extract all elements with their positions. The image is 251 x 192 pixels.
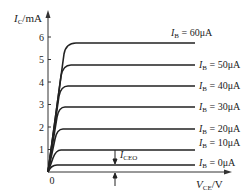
y-tick-4: 4 <box>39 77 44 88</box>
label-ib-30: IB = 30μA <box>198 101 241 114</box>
chart-svg: 1 2 3 4 5 6 0 IC/mA VCE/V IB = 60μA IB =… <box>0 0 251 192</box>
curve-ib-30 <box>48 107 195 172</box>
y-axis-arrow-icon <box>46 10 51 18</box>
x-axis-arrow-icon <box>224 170 232 175</box>
series-labels: IB = 60μA IB = 50μA IB = 40μA IB = 30μA … <box>170 27 241 170</box>
label-ib-60: IB = 60μA <box>170 27 213 40</box>
curve-ib-0 <box>48 165 195 172</box>
label-ib-40: IB = 40μA <box>198 80 241 93</box>
x-axis-label: VCE/V <box>196 178 223 192</box>
transistor-output-characteristics-chart: 1 2 3 4 5 6 0 IC/mA VCE/V IB = 60μA IB =… <box>0 0 251 192</box>
axes <box>48 16 226 172</box>
iceo-annotation <box>113 150 117 186</box>
y-tick-3: 3 <box>39 99 44 110</box>
label-ib-10: IB = 10μA <box>198 137 241 150</box>
label-ib-20: IB = 20μA <box>198 123 241 136</box>
label-ib-50: IB = 50μA <box>198 59 241 72</box>
y-tick-6: 6 <box>39 32 44 43</box>
iceo-arrow-up-icon <box>113 173 117 178</box>
y-tick-2: 2 <box>39 122 44 133</box>
y-axis-label: IC/mA <box>13 12 42 26</box>
y-tick-5: 5 <box>39 54 44 65</box>
y-tick-1: 1 <box>39 144 44 155</box>
iceo-label: ICEO <box>119 149 137 162</box>
iceo-arrow-down-icon <box>113 159 117 164</box>
label-ib-0: IB = 0μA <box>198 157 236 170</box>
origin-label: 0 <box>50 175 55 186</box>
y-tick-labels: 1 2 3 4 5 6 0 <box>39 32 55 187</box>
